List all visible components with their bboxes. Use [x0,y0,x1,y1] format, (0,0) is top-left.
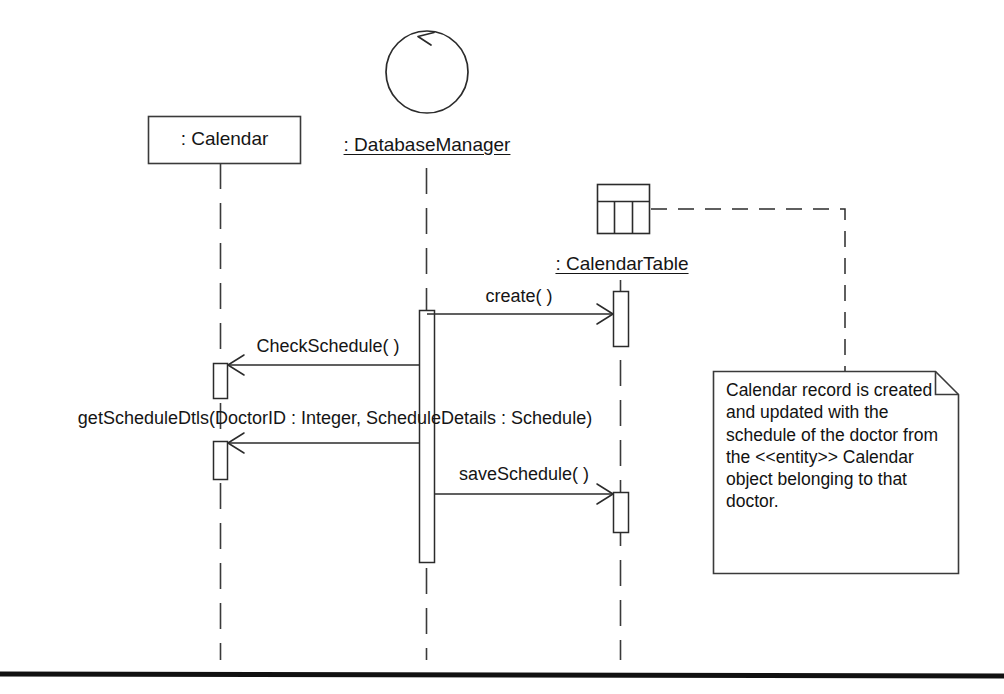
activation-databasemanager [420,311,435,563]
message-label-saveschedule: saveSchedule( ) [459,464,589,485]
participant-label-calendar: : Calendar [148,128,301,150]
message-label-getscheduledtls: getScheduleDtls(DoctorID : Integer, Sche… [78,408,592,429]
note-body-text: Calendar record is created and updated w… [726,379,940,513]
activation-calendartable-2 [614,493,629,533]
participant-label-databasemanager: : DatabaseManager [344,134,511,156]
message-arrow-create [427,304,613,324]
control-circle-icon [386,31,468,113]
message-arrow-checkschedule [228,355,419,375]
message-arrow-getscheduledtls [228,433,419,453]
diagram-canvas: : Calendar : DatabaseManager : CalendarT… [0,0,1004,694]
note-anchor-line [651,209,845,371]
message-arrow-saveschedule [435,484,613,504]
sequence-diagram-graphics [0,0,1004,694]
message-label-checkschedule: CheckSchedule( ) [256,336,399,357]
activation-calendartable-1 [614,292,629,347]
message-label-create: create( ) [485,286,552,307]
bottom-divider [0,674,1004,676]
table-icon [598,185,650,234]
activation-calendar-1 [214,364,228,399]
participant-label-calendartable: : CalendarTable [555,253,688,275]
activation-calendar-2 [214,442,228,480]
